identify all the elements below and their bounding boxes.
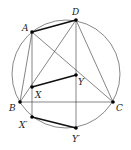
thick-segment-X-Y bbox=[32, 75, 76, 87]
label-X: X bbox=[34, 90, 42, 100]
segment-D-C bbox=[76, 20, 113, 102]
point-A bbox=[30, 30, 34, 34]
circumcircle bbox=[12, 20, 120, 128]
thick-segment-A-D bbox=[32, 20, 76, 32]
point-Yp bbox=[74, 126, 78, 130]
point-X bbox=[30, 85, 34, 89]
geometry-diagram: ADYXBCX′Y′ bbox=[0, 0, 131, 150]
point-C bbox=[111, 100, 115, 104]
point-B bbox=[18, 100, 22, 104]
label-Y: Y bbox=[78, 77, 85, 87]
label-Yp: Y′ bbox=[72, 134, 80, 144]
label-D: D bbox=[71, 7, 79, 17]
point-D bbox=[74, 18, 78, 22]
label-C: C bbox=[116, 103, 123, 113]
label-A: A bbox=[21, 23, 29, 33]
label-Xp: X′ bbox=[18, 120, 27, 130]
label-B: B bbox=[8, 103, 16, 113]
point-Xp bbox=[30, 115, 34, 119]
